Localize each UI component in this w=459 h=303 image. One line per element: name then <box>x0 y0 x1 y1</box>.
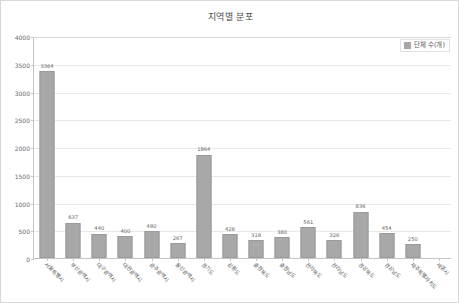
bar-value-label: 428 <box>225 227 235 232</box>
bar-group[interactable]: 326전라남도 <box>321 37 347 258</box>
bar-group[interactable]: 836경상북도 <box>348 37 374 258</box>
bar-value-label: 318 <box>251 233 261 238</box>
bar[interactable] <box>353 212 368 258</box>
y-tick-label: 0 <box>26 256 30 263</box>
bar-value-label: 326 <box>329 233 339 238</box>
bar-group[interactable]: 380충청남도 <box>269 37 295 258</box>
x-tick-label: 세종시 <box>435 262 449 276</box>
x-tick-label: 전라남도 <box>331 262 349 280</box>
x-tick-label: 경상남도 <box>383 262 401 280</box>
bar-chart: 지역별 분포 단체 수(개) 4000350030002500200015001… <box>0 0 459 303</box>
bar[interactable] <box>405 244 420 258</box>
bar-value-label: 380 <box>277 230 287 235</box>
y-tick-label: 1000 <box>15 200 30 207</box>
bar-group[interactable]: 454경상남도 <box>374 37 400 258</box>
chart-title: 지역별 분포 <box>1 10 459 23</box>
y-tick-label: 1500 <box>15 172 30 179</box>
bar-value-label: 400 <box>120 229 130 234</box>
bar[interactable] <box>92 234 107 258</box>
x-tick-label: 경상북도 <box>357 262 375 280</box>
bar-group[interactable]: 세종시 <box>426 37 452 258</box>
bar-group[interactable]: 480광주광역시 <box>139 37 165 258</box>
y-tick-label: 3500 <box>15 61 30 68</box>
bar-value-label: 561 <box>303 220 313 225</box>
bar-value-label: 454 <box>382 226 392 231</box>
bar-value-label: 440 <box>94 226 104 231</box>
y-tick-label: 3000 <box>15 89 30 96</box>
bar-group[interactable]: 1864경기도 <box>191 37 217 258</box>
bar[interactable] <box>196 155 211 258</box>
bar-value-label: 250 <box>408 237 418 242</box>
y-tick-label: 2500 <box>15 117 30 124</box>
x-tick-label: 경기도 <box>200 262 214 276</box>
x-tick-label: 충청북도 <box>252 262 270 280</box>
y-tick-label: 500 <box>19 228 30 235</box>
x-tick-label: 광주광역시 <box>148 262 170 284</box>
bar-value-label: 637 <box>68 215 78 220</box>
y-tick-label: 2000 <box>15 145 30 152</box>
bar-group[interactable]: 637부산광역시 <box>60 37 86 258</box>
bar[interactable] <box>170 243 185 258</box>
bar-group[interactable]: 267울산광역시 <box>165 37 191 258</box>
bar[interactable] <box>66 223 81 258</box>
bar-group[interactable]: 400대전광역시 <box>112 37 138 258</box>
bar-series: 3364서울특별시637부산광역시440대구광역시400대전광역시480광주광역… <box>34 37 451 258</box>
bar-group[interactable]: 250제주특별자치도 <box>400 37 426 258</box>
bar[interactable] <box>144 231 159 258</box>
bar-group[interactable]: 318충청북도 <box>243 37 269 258</box>
bar[interactable] <box>249 240 264 258</box>
plot-area: 40003500300025002000150010005000 3364서울특… <box>33 37 451 259</box>
x-tick-label: 제주특별자치도 <box>409 262 438 291</box>
bar[interactable] <box>118 236 133 258</box>
x-tick-label: 서울특별시 <box>43 262 65 284</box>
bar-group[interactable]: 440대구광역시 <box>86 37 112 258</box>
bar-value-label: 3364 <box>40 64 53 69</box>
y-tick-label: 4000 <box>15 34 30 41</box>
bar[interactable] <box>301 227 316 258</box>
bar[interactable] <box>40 71 55 258</box>
x-tick-label: 전라북도 <box>304 262 322 280</box>
bar-value-label: 836 <box>356 204 366 209</box>
bar-group[interactable]: 428강원도 <box>217 37 243 258</box>
bar[interactable] <box>379 233 394 258</box>
x-tick-label: 대전광역시 <box>122 262 144 284</box>
x-tick-label: 부산광역시 <box>69 262 91 284</box>
bar-group[interactable]: 561전라북도 <box>295 37 321 258</box>
bar[interactable] <box>327 240 342 258</box>
x-tick-label: 충청남도 <box>278 262 296 280</box>
bar[interactable] <box>275 237 290 258</box>
x-tick-label: 울산광역시 <box>174 262 196 284</box>
x-tick-label: 강원도 <box>226 262 240 276</box>
bar-value-label: 267 <box>173 236 183 241</box>
bar[interactable] <box>222 234 237 258</box>
bar-value-label: 480 <box>147 224 157 229</box>
bar-value-label: 1864 <box>197 147 210 152</box>
bar-group[interactable]: 3364서울특별시 <box>34 37 60 258</box>
y-tick-mark <box>31 259 34 260</box>
x-tick-label: 대구광역시 <box>95 262 117 284</box>
